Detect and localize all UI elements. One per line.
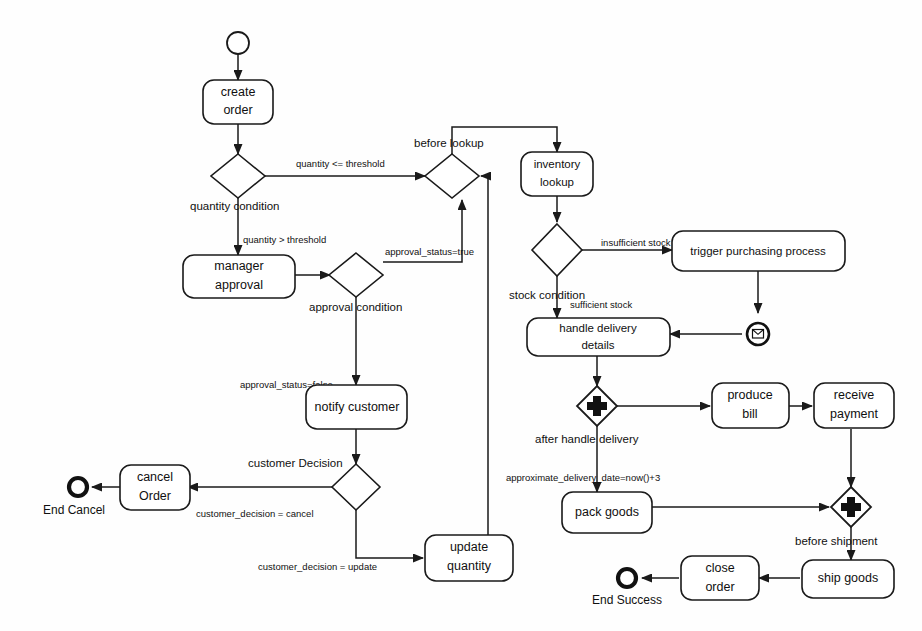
edge-label-approximate-delivery-date: approximate_delivery_date=now()+3: [506, 472, 660, 483]
activity-diagram-svg: quantity <= threshold quantity > thresho…: [0, 0, 922, 631]
close-order-label-line1: close: [705, 561, 734, 575]
edge-label-approval-status-true: approval_status=true: [385, 246, 474, 257]
stock-condition-label: stock condition: [509, 289, 585, 301]
customer-decision-label: customer Decision: [248, 457, 343, 469]
produce-bill-label-line2: bill: [742, 407, 757, 421]
handle-delivery-label-line1: handle delivery: [559, 322, 637, 334]
node-manager-approval[interactable]: manager approval: [183, 255, 295, 298]
node-after-handle-delivery-fork[interactable]: after handle delivery: [535, 386, 639, 445]
node-handle-delivery[interactable]: handle delivery details: [527, 318, 670, 356]
update-quantity-label-line2: quantity: [447, 559, 492, 573]
before-shipment-label: before shipment: [795, 535, 878, 547]
receive-payment-label-line2: payment: [830, 407, 878, 421]
after-handle-delivery-label: after handle delivery: [535, 433, 639, 445]
node-end-success[interactable]: End Success: [592, 569, 662, 607]
edge-label-customer-decision-cancel: customer_decision = cancel: [196, 508, 314, 519]
approval-condition-label: approval condition: [309, 301, 402, 313]
close-order-label-line2: order: [705, 580, 734, 594]
create-order-label-line2: order: [223, 103, 252, 117]
initial-node-icon[interactable]: [227, 32, 249, 54]
node-trigger-purchasing[interactable]: trigger purchasing process: [672, 231, 845, 271]
handle-delivery-label-line2: details: [581, 339, 614, 351]
node-ship-goods[interactable]: ship goods: [802, 560, 894, 598]
node-receive-payment[interactable]: receive payment: [814, 383, 894, 428]
edge-update-quantity-to-before-lookup: [481, 176, 488, 535]
create-order-label-line1: create: [221, 85, 256, 99]
edge-label-quantity-gt-threshold: quantity > threshold: [243, 234, 326, 245]
pack-goods-label: pack goods: [575, 505, 639, 519]
final-node-cancel-icon[interactable]: [69, 478, 87, 496]
cancel-order-label-line2: Order: [139, 489, 171, 503]
node-pack-goods[interactable]: pack goods: [562, 492, 652, 533]
before-lookup-shape[interactable]: [425, 154, 479, 198]
node-before-shipment-join[interactable]: before shipment: [795, 487, 878, 547]
trigger-purchasing-label: trigger purchasing process: [690, 245, 826, 257]
inventory-lookup-label-line1: inventory: [534, 158, 581, 170]
edge-label-customer-decision-update: customer_decision = update: [258, 561, 377, 572]
ship-goods-label: ship goods: [818, 571, 878, 585]
node-produce-bill[interactable]: produce bill: [712, 383, 789, 428]
node-customer-decision[interactable]: customer Decision: [248, 457, 380, 510]
manager-approval-label-line1: manager: [214, 259, 263, 273]
node-inventory-lookup[interactable]: inventory lookup: [521, 152, 593, 196]
update-quantity-label-line1: update: [450, 540, 488, 554]
produce-bill-label-line1: produce: [727, 388, 772, 402]
cancel-order-label-line1: cancel: [137, 470, 173, 484]
manager-approval-label-line2: approval: [215, 278, 263, 292]
end-success-label: End Success: [592, 593, 662, 607]
node-end-cancel[interactable]: End Cancel: [43, 478, 105, 517]
approval-condition-shape[interactable]: [329, 253, 383, 297]
stock-condition-shape[interactable]: [532, 224, 582, 276]
receive-payment-label-line1: receive: [834, 388, 874, 402]
node-start[interactable]: [227, 32, 249, 54]
node-quantity-condition[interactable]: quantity condition: [190, 154, 280, 212]
quantity-condition-shape[interactable]: [211, 154, 265, 198]
node-notify-customer[interactable]: notify customer: [306, 385, 407, 429]
quantity-condition-label: quantity condition: [190, 200, 280, 212]
edge-label-insufficient-stock: insufficient stock: [601, 237, 671, 248]
inventory-lookup-label-line2: lookup: [540, 176, 574, 188]
node-update-quantity[interactable]: update quantity: [425, 535, 513, 581]
edge-label-quantity-le-threshold: quantity <= threshold: [296, 158, 385, 169]
notify-customer-label: notify customer: [315, 400, 400, 414]
node-stock-condition[interactable]: stock condition: [509, 224, 585, 301]
node-create-order[interactable]: create order: [203, 80, 273, 124]
before-lookup-label: before lookup: [414, 137, 484, 149]
node-close-order[interactable]: close order: [681, 556, 759, 600]
edge-layer: [92, 54, 851, 578]
end-cancel-label: End Cancel: [43, 503, 105, 517]
node-signal-receive[interactable]: [747, 323, 769, 345]
node-cancel-order[interactable]: cancel Order: [120, 465, 190, 510]
activity-diagram-canvas: quantity <= threshold quantity > thresho…: [0, 0, 922, 631]
edge-customer-decision-to-update-quantity: [356, 510, 423, 558]
customer-decision-shape[interactable]: [332, 464, 380, 510]
final-node-success-icon[interactable]: [618, 569, 636, 587]
node-before-lookup[interactable]: before lookup: [414, 137, 484, 198]
